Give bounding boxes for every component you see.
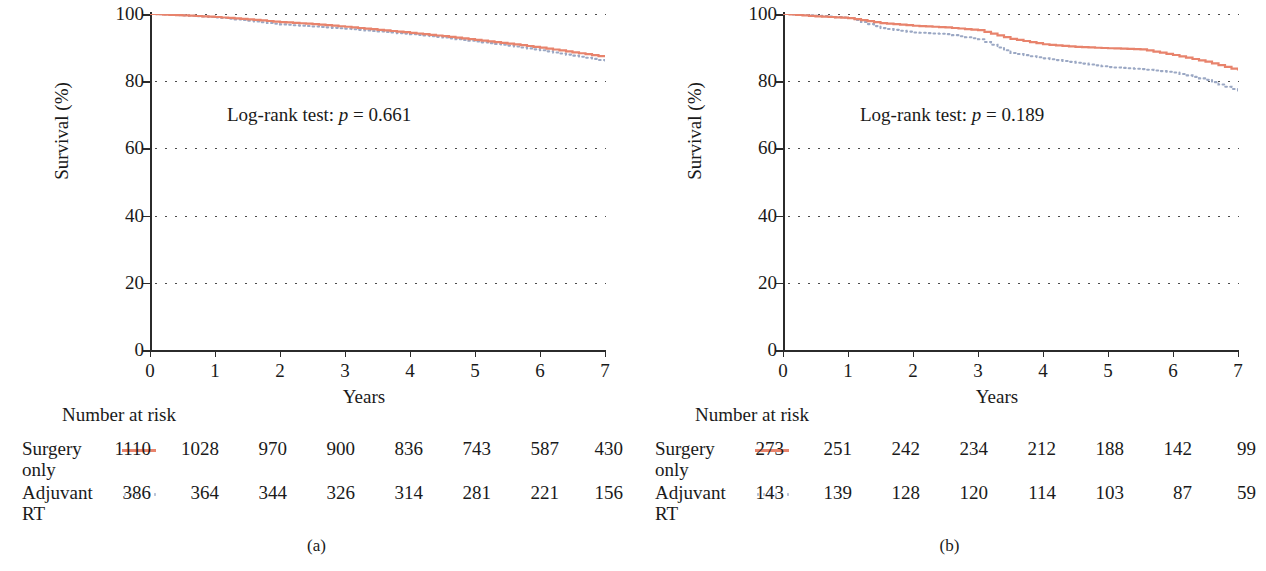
panel-a: Survival (%) Years 020406080100 01234567… [0, 0, 633, 571]
panel-caption-b: (b) [633, 536, 1266, 556]
risk-count: 221 [513, 482, 559, 504]
risk-count: 273 [738, 438, 784, 460]
survival-curves-a [150, 14, 605, 350]
x-axis-tick-label: 2 [265, 360, 295, 382]
risk-count: 1028 [173, 438, 219, 460]
risk-count: 314 [377, 482, 423, 504]
y-axis-title: Survival (%) [51, 41, 73, 221]
x-axis-tick-label: 5 [460, 360, 490, 382]
survival-curve-surgery-only [783, 14, 1238, 70]
risk-count: 587 [513, 438, 559, 460]
x-axis-tick [978, 350, 979, 357]
x-axis-tick-label: 1 [200, 360, 230, 382]
survival-curve-adjuvant-rt [783, 14, 1238, 91]
log-rank-annotation-b: Log-rank test: p = 0.189 [860, 104, 1044, 126]
x-axis-tick [410, 350, 411, 357]
x-axis-tick [345, 350, 346, 357]
risk-count: 188 [1078, 438, 1124, 460]
risk-row-surgery-only: Surgeryonly 27325124223421218814299 [633, 438, 1266, 484]
x-axis-tick [605, 350, 606, 357]
risk-count: 326 [309, 482, 355, 504]
risk-row-adjuvant-rt: AdjuvantRT 386364344326314281221156 [0, 482, 633, 528]
risk-count: 143 [738, 482, 784, 504]
y-axis-title: Survival (%) [684, 41, 706, 221]
log-rank-annotation-a: Log-rank test: p = 0.661 [227, 104, 411, 126]
x-axis-tick [280, 350, 281, 357]
risk-count: 386 [105, 482, 151, 504]
risk-count: 87 [1146, 482, 1192, 504]
x-axis-line [150, 350, 606, 352]
x-axis-tick-label: 6 [525, 360, 555, 382]
x-axis-tick [215, 350, 216, 357]
survival-curve-surgery-only [150, 14, 605, 57]
risk-count: 139 [806, 482, 852, 504]
x-axis-tick-label: 5 [1093, 360, 1123, 382]
x-axis-tick [1173, 350, 1174, 357]
x-axis-tick [1238, 350, 1239, 357]
x-axis-tick-label: 4 [1028, 360, 1058, 382]
risk-count: 156 [577, 482, 623, 504]
risk-count: 59 [1210, 482, 1256, 504]
risk-count: 234 [942, 438, 988, 460]
x-axis-tick-label: 7 [590, 360, 620, 382]
survival-curve-adjuvant-rt [150, 14, 605, 61]
x-axis-tick-label: 0 [768, 360, 798, 382]
panel-caption-a: (a) [0, 536, 633, 556]
risk-count: 364 [173, 482, 219, 504]
risk-count: 103 [1078, 482, 1124, 504]
x-axis-tick [1108, 350, 1109, 357]
risk-table-title: Number at risk [62, 404, 176, 426]
survival-curves-b [783, 14, 1238, 350]
risk-table-title: Number at risk [695, 404, 809, 426]
risk-count: 743 [445, 438, 491, 460]
risk-count: 142 [1146, 438, 1192, 460]
risk-count: 430 [577, 438, 623, 460]
risk-count: 1110 [105, 438, 151, 460]
x-axis-tick [1043, 350, 1044, 357]
kaplan-meier-figure: Survival (%) Years 020406080100 01234567… [0, 0, 1266, 571]
x-axis-tick-label: 4 [395, 360, 425, 382]
risk-count: 900 [309, 438, 355, 460]
risk-count: 212 [1010, 438, 1056, 460]
x-axis-tick [783, 350, 784, 357]
panel-b: Survival (%) Years 020406080100 01234567… [633, 0, 1266, 571]
x-axis-tick-label: 1 [833, 360, 863, 382]
risk-row-adjuvant-rt: AdjuvantRT 1431391281201141038759 [633, 482, 1266, 528]
x-axis-tick [150, 350, 151, 357]
x-axis-tick-label: 0 [135, 360, 165, 382]
risk-row-surgery-only: Surgeryonly 11101028970900836743587430 [0, 438, 633, 484]
x-axis-tick-label: 3 [963, 360, 993, 382]
risk-count: 836 [377, 438, 423, 460]
x-axis-tick [913, 350, 914, 357]
risk-count: 251 [806, 438, 852, 460]
x-axis-tick-label: 3 [330, 360, 360, 382]
x-axis-tick-label: 7 [1223, 360, 1253, 382]
risk-count: 281 [445, 482, 491, 504]
x-axis-tick-label: 2 [898, 360, 928, 382]
risk-count: 114 [1010, 482, 1056, 504]
x-axis-tick [540, 350, 541, 357]
risk-count: 344 [241, 482, 287, 504]
x-axis-line [783, 350, 1239, 352]
x-axis-tick [475, 350, 476, 357]
risk-count: 242 [874, 438, 920, 460]
x-axis-tick [848, 350, 849, 357]
risk-count: 99 [1210, 438, 1256, 460]
x-axis-tick-label: 6 [1158, 360, 1188, 382]
risk-count: 120 [942, 482, 988, 504]
risk-count: 128 [874, 482, 920, 504]
risk-count: 970 [241, 438, 287, 460]
